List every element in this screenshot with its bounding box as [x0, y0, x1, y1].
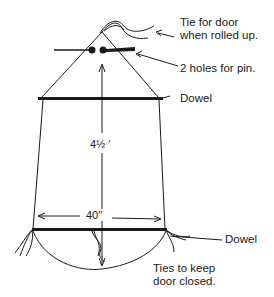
bottom-dowel [32, 228, 167, 231]
holes-label: 2 holes for pin. [180, 62, 255, 74]
ties-label-line1: Ties to keep [153, 262, 215, 274]
height-dimension: 4½ ′ [88, 138, 112, 150]
width-dimension: 40″ [84, 209, 104, 221]
top-dowel [38, 97, 163, 100]
pin-hole-right [100, 47, 107, 54]
ties-label-line2: door closed. [153, 275, 216, 287]
pin-hole-left [89, 47, 96, 54]
tie-label-line2: when rolled up. [180, 29, 258, 41]
top-dowel-label: Dowel [180, 92, 212, 104]
tie-label-line1: Tie for door [180, 16, 238, 28]
door-drawing [0, 0, 274, 297]
bottom-dowel-label: Dowel [225, 233, 257, 245]
